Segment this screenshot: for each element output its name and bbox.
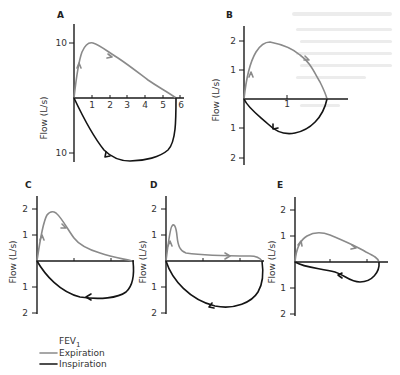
y-axis-label-a: Flow (L/s) (39, 96, 49, 139)
y-axis-label-e: Flow (L/s) (267, 240, 277, 283)
panel-a: A Flow (L/s) 10 10 1 2 3 4 5 6 (39, 10, 184, 162)
panel-e: E Flow (L/s) 2 1 1 2 (267, 180, 388, 319)
svg-text:1: 1 (280, 283, 286, 293)
svg-text:2: 2 (280, 309, 286, 319)
y-axis-label-c: Flow (L/s) (8, 240, 18, 283)
expiration-curve-a (74, 43, 176, 98)
legend-inspiration: Inspiration (59, 359, 107, 369)
inspiration-curve-e (295, 262, 379, 282)
svg-text:1: 1 (230, 123, 236, 133)
svg-text:2: 2 (151, 308, 157, 318)
svg-text:10: 10 (56, 148, 68, 158)
expiration-curve-e (295, 233, 379, 262)
flow-volume-figure: A Flow (L/s) 10 10 1 2 3 4 5 6 B (0, 0, 400, 375)
legend: FEV1 Expiration Inspiration (40, 336, 107, 369)
svg-text:2: 2 (230, 153, 236, 163)
svg-text:1: 1 (230, 65, 236, 75)
svg-text:1: 1 (151, 230, 157, 240)
svg-text:3: 3 (124, 100, 130, 110)
expiration-curve-d (166, 225, 262, 261)
expiration-curve-b (244, 42, 327, 99)
svg-text:1: 1 (151, 282, 157, 292)
panel-label-d: D (150, 180, 157, 190)
arrow-icon (249, 72, 253, 77)
svg-text:2: 2 (22, 204, 28, 214)
x-ticks-a: 1 2 3 4 5 6 (89, 95, 184, 110)
panel-d: D Flow (L/s) 2 1 1 2 (138, 180, 264, 318)
panel-label-a: A (57, 10, 64, 20)
svg-text:2: 2 (280, 205, 286, 215)
svg-text:1: 1 (89, 100, 95, 110)
panel-label-c: C (25, 180, 32, 190)
arrow-icon (298, 241, 302, 246)
y-axis-label-d: Flow (L/s) (138, 240, 148, 283)
arrow-icon (86, 294, 91, 300)
svg-text:1: 1 (284, 99, 290, 109)
y-axis-label-b: Flow (L/s) (211, 78, 221, 121)
svg-text:5: 5 (160, 100, 166, 110)
inspiration-curve-c (37, 261, 133, 298)
panel-b: B Flow (L/s) 2 1 1 2 1 (211, 10, 348, 165)
svg-text:2: 2 (22, 308, 28, 318)
panel-label-e: E (277, 180, 283, 190)
svg-text:1: 1 (22, 282, 28, 292)
svg-text:1: 1 (22, 230, 28, 240)
inspiration-curve-d (166, 261, 263, 307)
arrow-icon (273, 124, 278, 129)
svg-text:1: 1 (280, 231, 286, 241)
svg-text:10: 10 (56, 38, 68, 48)
svg-text:4: 4 (142, 100, 148, 110)
svg-text:2: 2 (151, 204, 157, 214)
svg-text:2: 2 (107, 100, 113, 110)
svg-text:6: 6 (178, 100, 184, 110)
legend-expiration: Expiration (59, 348, 105, 358)
panel-label-b: B (226, 10, 233, 20)
panel-c: C Flow (L/s) 2 1 1 2 (8, 180, 134, 318)
svg-text:2: 2 (230, 36, 236, 46)
expiration-curve-c (37, 212, 132, 261)
fev1-legend-star-icon (42, 336, 50, 344)
